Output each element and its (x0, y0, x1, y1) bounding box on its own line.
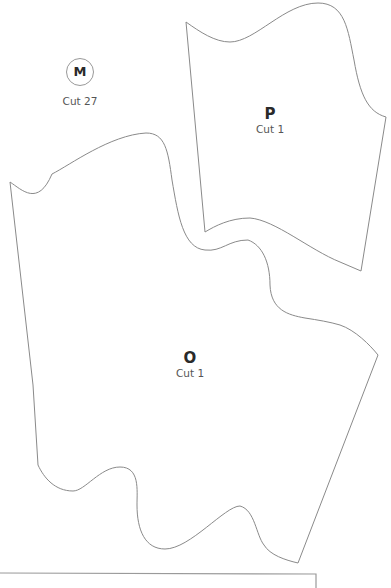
pattern-canvas (0, 0, 391, 588)
piece-m-badge: M (66, 58, 94, 86)
piece-m-cut: Cut 27 (50, 95, 110, 107)
piece-m-letter: M (74, 64, 87, 79)
piece-o-cut: Cut 1 (160, 367, 220, 379)
piece-p-letter: P (240, 106, 300, 122)
piece-o-outline (10, 133, 378, 563)
piece-o-letter: O (160, 350, 220, 366)
partial-piece-outline (0, 573, 316, 588)
piece-p-outline (186, 3, 386, 271)
piece-p-cut: Cut 1 (240, 123, 300, 135)
